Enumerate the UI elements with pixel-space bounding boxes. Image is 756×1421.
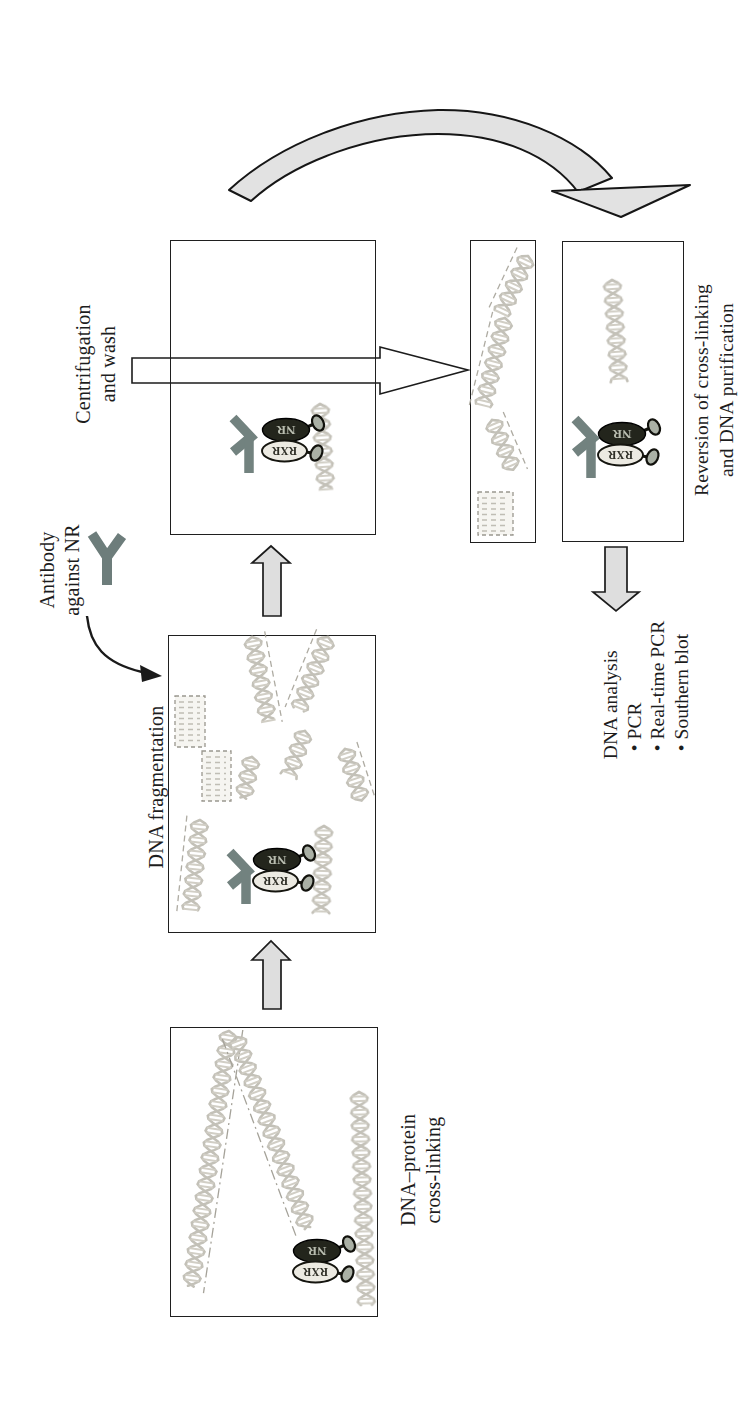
reversion-label: Reversion of cross-linking and DNA purif…: [689, 284, 739, 496]
fragmentation-box: [168, 635, 376, 933]
analysis-label: DNA analysis PCR Real-time PCR Southern …: [599, 621, 693, 759]
antibody-icon: [92, 534, 122, 585]
crosslinking-box: [170, 1027, 378, 1317]
chip-workflow-figure: Centrifugation and wash Antibody against…: [0, 0, 756, 1421]
antibody-label: Antibody against NR: [35, 524, 85, 615]
antibody-add-arrow: [87, 616, 162, 682]
analysis-item: Real-time PCR: [646, 621, 670, 759]
analysis-item: PCR: [623, 621, 647, 759]
washed-fragments-box: [470, 240, 536, 543]
flow-arrow-crosslink-to-fragmentation: [252, 941, 290, 1009]
crosslinking-label: DNA–protein cross-linking: [396, 1114, 446, 1226]
centrifugation-label: Centrifugation and wash: [71, 304, 121, 423]
analysis-title: DNA analysis: [599, 621, 623, 759]
purified-dna-box: [562, 241, 684, 542]
fragmentation-label: DNA fragmentation: [144, 706, 169, 869]
flow-arrow-to-analysis: [593, 547, 639, 611]
immunoprecipitation-box: [170, 240, 376, 535]
curved-return-arrow: [229, 110, 690, 217]
analysis-item: Southern blot: [670, 621, 694, 759]
flow-arrow-fragmentation-to-ip: [252, 546, 290, 616]
